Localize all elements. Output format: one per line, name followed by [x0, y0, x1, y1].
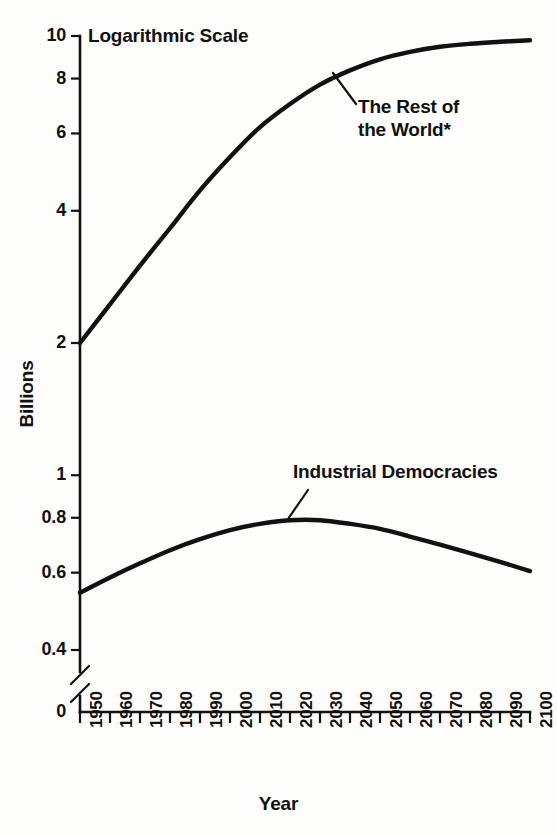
x-tick-label: 1960: [117, 691, 137, 728]
x-tick-label: 1990: [207, 691, 227, 728]
series-label-rest-of-world: The Rest of the World*: [358, 96, 459, 142]
annotation-leader-lines: [288, 73, 356, 519]
series-curve-rest-of-world: [80, 40, 530, 343]
x-tick-label: 2040: [357, 691, 377, 728]
y-tick-label: 0.4: [0, 639, 66, 660]
x-tick-label: 1970: [147, 691, 167, 728]
x-tick-label: 2070: [447, 691, 467, 728]
x-tick-label: 1950: [87, 691, 107, 728]
series-curve-industrial-democracies: [80, 520, 530, 593]
x-axis-title: Year: [0, 793, 557, 815]
x-tick-label: 2020: [297, 691, 317, 728]
x-tick-label: 2100: [537, 691, 557, 728]
x-tick-label: 2050: [387, 691, 407, 728]
x-tick-label: 2000: [237, 691, 257, 728]
log-scale-note: Logarithmic Scale: [88, 25, 248, 47]
x-tick-label: 2090: [507, 691, 527, 728]
tick-marks-group: [71, 36, 530, 723]
leader-line-rest-of-world: [333, 73, 356, 104]
y-tick-label: 1: [0, 464, 66, 485]
series-label-industrial-democracies: Industrial Democracies: [293, 461, 498, 484]
y-tick-label: 8: [0, 68, 66, 89]
x-tick-label: 2010: [267, 691, 287, 728]
y-tick-label: 10: [0, 25, 66, 46]
axes-group: [80, 36, 530, 712]
y-tick-label: 6: [0, 122, 66, 143]
chart-figure: Logarithmic Scale 10864210.80.60.40 1950…: [0, 0, 557, 836]
y-tick-label: 0.6: [0, 562, 66, 583]
y-tick-label: 0: [0, 701, 66, 722]
y-tick-label: 4: [0, 200, 66, 221]
y-tick-label: 0.8: [0, 507, 66, 528]
x-tick-label: 2060: [417, 691, 437, 728]
y-axis-title: Billions: [16, 349, 38, 439]
x-tick-label: 1980: [177, 691, 197, 728]
leader-line-industrial-democracies: [288, 490, 308, 519]
x-tick-label: 2080: [477, 691, 497, 728]
series-curves-group: [80, 40, 530, 593]
x-tick-label: 2030: [327, 691, 347, 728]
